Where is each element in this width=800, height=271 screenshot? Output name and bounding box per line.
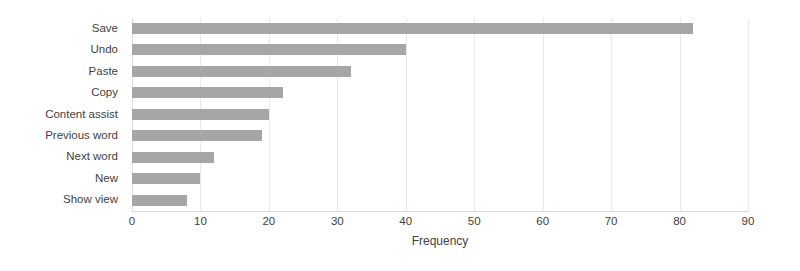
category-label-undo: Undo [0, 44, 125, 55]
bar-row [132, 82, 748, 103]
bar-row [132, 147, 748, 168]
bar-copy [132, 87, 283, 98]
category-label-save: Save [0, 23, 125, 34]
x-axis-line [132, 211, 749, 212]
bar-save [132, 23, 693, 34]
x-tick-60: 60 [536, 214, 549, 228]
category-label-content-assist: Content assist [0, 109, 125, 120]
x-axis-tick-labels: 0102030405060708090 [0, 214, 800, 232]
x-tick-40: 40 [399, 214, 412, 228]
x-axis-title: Frequency [132, 234, 748, 248]
x-tick-20: 20 [262, 214, 275, 228]
x-tick-50: 50 [468, 214, 481, 228]
bar-chart: SaveUndoPasteCopyContent assistPrevious … [0, 0, 800, 271]
category-label-copy: Copy [0, 87, 125, 98]
x-tick-90: 90 [742, 214, 755, 228]
bar-row [132, 125, 748, 146]
bar-next-word [132, 152, 214, 163]
bars-layer [132, 18, 748, 211]
bar-row [132, 39, 748, 60]
x-tick-30: 30 [331, 214, 344, 228]
bar-show-view [132, 195, 187, 206]
category-axis-labels: SaveUndoPasteCopyContent assistPrevious … [0, 18, 125, 211]
bar-row [132, 168, 748, 189]
x-tick-0: 0 [129, 214, 135, 228]
category-label-paste: Paste [0, 66, 125, 77]
bar-content-assist [132, 109, 269, 120]
category-label-next-word: Next word [0, 151, 125, 162]
bar-paste [132, 66, 351, 77]
bar-new [132, 173, 200, 184]
plot-area [132, 18, 748, 211]
bar-row [132, 104, 748, 125]
gridline-90 [748, 18, 749, 211]
bar-undo [132, 44, 406, 55]
x-tick-10: 10 [194, 214, 207, 228]
category-label-new: New [0, 173, 125, 184]
category-label-previous-word: Previous word [0, 130, 125, 141]
bar-row [132, 61, 748, 82]
category-label-show-view: Show view [0, 194, 125, 205]
x-tick-70: 70 [605, 214, 618, 228]
bar-previous-word [132, 130, 262, 141]
x-tick-80: 80 [673, 214, 686, 228]
bar-row [132, 18, 748, 39]
bar-row [132, 190, 748, 211]
